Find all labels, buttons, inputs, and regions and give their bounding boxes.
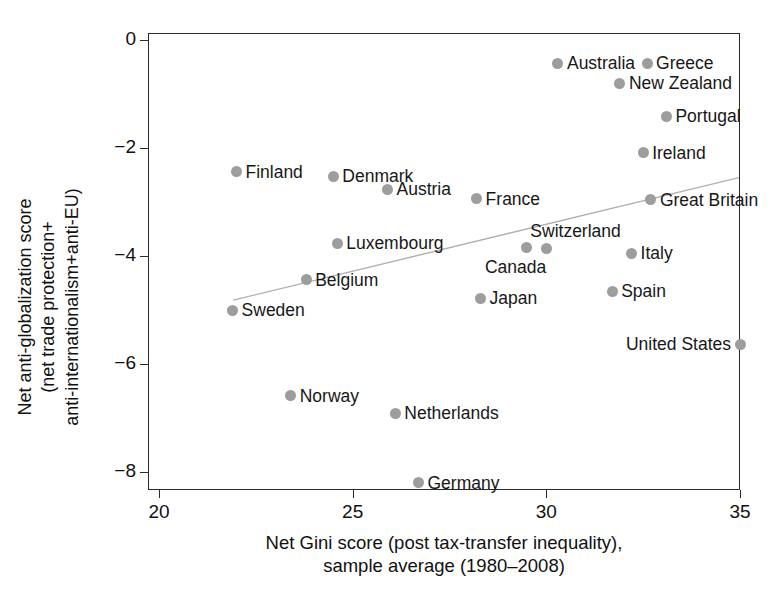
y-axis-title: Net anti-globalization score (net trade … [0,0,120,614]
data-point-label: Switzerland [530,220,620,241]
y-tick-mark [140,364,148,365]
data-point-label: Spain [621,281,666,302]
data-point-label: Germany [428,472,500,493]
data-point[interactable] [475,293,486,304]
y-tick-mark [140,472,148,473]
data-point[interactable] [390,408,401,419]
data-point-label: Australia [567,53,635,74]
data-point[interactable] [638,147,649,158]
data-point[interactable] [626,248,637,259]
data-point-label: United States [626,334,731,355]
data-point-label: Finland [245,161,302,182]
data-point[interactable] [328,171,339,182]
data-point-label: Austria [397,179,451,200]
y-axis-title-line3: anti-internationalism+anti-EU) [61,0,84,614]
data-point[interactable] [607,286,618,297]
scatter-plot-figure: 0−2−4−6−8 20253035 AustraliaGreeceNew Ze… [0,0,775,614]
data-point-label: France [486,188,540,209]
x-tick-label: 35 [729,501,750,523]
data-point-label: Japan [489,288,537,309]
data-point[interactable] [661,111,672,122]
y-tick-mark [140,40,148,41]
data-point-label: Luxembourg [346,233,443,254]
data-point-label: Greece [656,53,713,74]
x-tick-label: 30 [536,501,557,523]
data-point-label: Portugal [675,106,740,127]
x-tick-label: 20 [148,501,169,523]
x-tick-mark [353,490,354,498]
x-axis-title-line1: Net Gini score (post tax-transfer inequa… [148,531,740,554]
y-tick-mark [140,148,148,149]
data-point-label: Norway [300,385,359,406]
data-point[interactable] [382,184,393,195]
data-point[interactable] [642,58,653,69]
x-tick-mark [159,490,160,498]
y-axis-title-line1: Net anti-globalization score [14,0,37,614]
data-point-label: Canada [485,256,546,277]
x-tick-label: 25 [342,501,363,523]
y-tick-label: 0 [125,28,136,50]
data-point[interactable] [332,238,343,249]
y-axis-title-line2: (net trade protection+ [37,0,60,614]
data-point-label: Italy [641,243,673,264]
data-point-label: New Zealand [629,73,732,94]
data-point-label: Great Britain [660,189,758,210]
x-tick-mark [546,490,547,498]
data-point[interactable] [227,305,238,316]
data-point-label: Belgium [315,269,378,290]
data-point-label: Sweden [242,300,305,321]
data-point[interactable] [301,274,312,285]
x-tick-mark [740,490,741,498]
x-axis-title: Net Gini score (post tax-transfer inequa… [148,531,740,577]
x-axis-title-line2: sample average (1980–2008) [148,554,740,577]
data-point-label: Ireland [652,142,706,163]
data-point[interactable] [735,339,746,350]
data-point-label: Netherlands [404,403,498,424]
y-tick-mark [140,256,148,257]
